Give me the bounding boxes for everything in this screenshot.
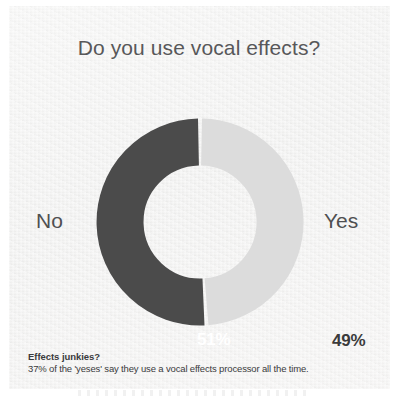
- donut-value-yes: 49%: [332, 331, 365, 351]
- caption-body: 37% of the 'yeses' say they use a vocal …: [28, 363, 358, 375]
- donut-ring: [120, 142, 280, 302]
- donut-label-no: No: [36, 209, 63, 233]
- donut-label-yes: Yes: [324, 209, 358, 233]
- donut-arc-no[interactable]: [120, 142, 203, 302]
- chart-title: Do you use vocal effects?: [0, 36, 398, 60]
- caption-heading: Effects junkies?: [28, 351, 358, 363]
- caption-block: Effects junkies? 37% of the 'yeses' say …: [28, 351, 358, 375]
- donut-chart-svg: [96, 118, 304, 326]
- donut-chart: 51% 49%: [96, 118, 304, 326]
- donut-arc-yes[interactable]: [202, 142, 281, 302]
- donut-value-no: 51%: [197, 330, 230, 350]
- scan-artifact: [78, 390, 308, 396]
- infographic-figure: Do you use vocal effects? 51% 49% No Yes…: [0, 0, 398, 401]
